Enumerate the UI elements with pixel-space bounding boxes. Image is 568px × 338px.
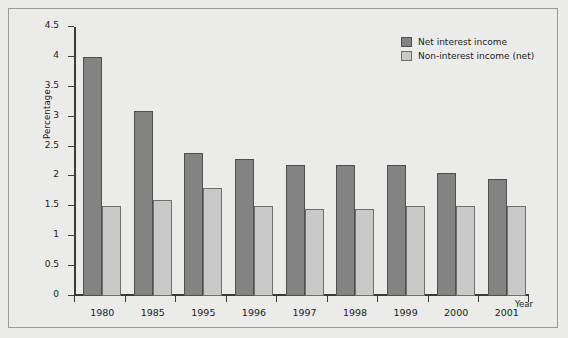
bar-non-interest-income[interactable] [153,200,172,296]
legend-swatch-icon [401,51,412,61]
x-tick-label: 1997 [292,307,316,318]
y-tick: 1.5 [68,205,74,206]
bar-group: 1998 [336,27,374,296]
bar-net-interest-income[interactable] [184,153,203,296]
x-tick [327,296,328,302]
x-tick [125,296,126,302]
bar-non-interest-income[interactable] [355,209,374,296]
x-tick-label: 1998 [343,307,367,318]
y-tick-label: 0.5 [45,259,59,269]
x-tick-label: 1999 [394,307,418,318]
x-tick [478,296,479,302]
bar-net-interest-income[interactable] [134,111,153,296]
bar-group: 1996 [235,27,273,296]
legend-label: Non-interest income (net) [418,51,534,61]
y-tick: 1 [68,235,74,236]
bar-net-interest-income[interactable] [235,159,254,296]
y-tick-label: 1.5 [45,199,59,209]
plot-area: 00.511.522.533.544.5 1980198519951996199… [74,27,529,296]
bar-non-interest-income[interactable] [102,206,121,296]
x-tick [175,296,176,302]
legend-item[interactable]: Non-interest income (net) [401,51,534,61]
y-tick-label: 4 [53,50,59,60]
x-axis-title: Year [515,299,533,309]
x-tick-label: 1995 [191,307,215,318]
y-axis-line [74,27,76,296]
y-tick-label: 2.5 [45,140,59,150]
bar-non-interest-income[interactable] [456,206,475,296]
bar-net-interest-income[interactable] [488,179,507,296]
y-tick: 0.5 [68,265,74,266]
bar-net-interest-income[interactable] [437,173,456,296]
x-tick-label: 2000 [444,307,468,318]
bar-group: 2000 [437,27,475,296]
x-tick [276,296,277,302]
y-tick: 3 [68,116,74,117]
chart-legend: Net interest incomeNon-interest income (… [401,37,534,65]
legend-label: Net interest income [418,37,507,47]
y-tick-label: 1 [53,229,59,239]
bar-non-interest-income[interactable] [406,206,425,296]
bar-group: 1980 [83,27,121,296]
y-tick-label: 3 [53,110,59,120]
y-tick: 3.5 [68,86,74,87]
bar-non-interest-income[interactable] [305,209,324,296]
bar-net-interest-income[interactable] [387,165,406,297]
x-tick-label: 1985 [141,307,165,318]
x-tick-label: 1996 [242,307,266,318]
bar-net-interest-income[interactable] [336,165,355,297]
y-tick: 4 [68,56,74,57]
bar-group: 1995 [184,27,222,296]
chart-frame: Percentage 00.511.522.533.544.5 19801985… [8,8,558,328]
bar-group: 1997 [286,27,324,296]
y-tick-label: 4.5 [45,20,59,30]
bar-group: 2001 [488,27,526,296]
bar-net-interest-income[interactable] [83,57,102,296]
x-tick [226,296,227,302]
y-tick: 2 [68,175,74,176]
y-tick-label: 3.5 [45,80,59,90]
y-tick: 2.5 [68,146,74,147]
bar-non-interest-income[interactable] [203,188,222,296]
legend-swatch-icon [401,37,412,47]
y-axis-title: Percentage [42,54,52,174]
bar-net-interest-income[interactable] [286,165,305,297]
bar-non-interest-income[interactable] [254,206,273,296]
bar-group: 1985 [134,27,172,296]
legend-item[interactable]: Net interest income [401,37,534,47]
x-tick [377,296,378,302]
bar-non-interest-income[interactable] [507,206,526,296]
y-tick-label: 0 [53,289,59,299]
y-tick-label: 2 [53,169,59,179]
x-tick [428,296,429,302]
x-tick [74,296,75,302]
y-tick: 4.5 [68,26,74,27]
x-tick-label: 1980 [90,307,114,318]
bar-group: 1999 [387,27,425,296]
